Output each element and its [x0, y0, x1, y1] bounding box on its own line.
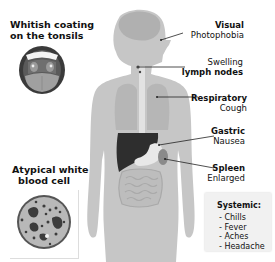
systemic-item: - Fever	[219, 223, 265, 233]
left-lung	[115, 84, 137, 130]
right-lung	[147, 84, 169, 130]
leader-dot	[158, 144, 160, 146]
lymph-category: lymph nodes	[182, 67, 243, 77]
visual-callout: Visual Photophobia	[191, 20, 244, 40]
systemic-symptoms-box: Systemic: - Chills - Fever - Aches - Hea…	[205, 193, 271, 251]
systemic-symptom-list: - Chills - Fever - Aches - Headache	[219, 213, 265, 251]
respiratory-category: Respiratory	[191, 93, 247, 103]
spleen-symptom: Enlarged	[207, 173, 245, 183]
tonsils-callout-title: Whitish coating on the tonsils	[10, 19, 76, 41]
visual-category: Visual	[191, 20, 244, 30]
gastric-category: Gastric	[211, 126, 245, 136]
gastric-symptom: Nausea	[211, 136, 245, 146]
mononucleosis-symptoms-diagram: Whitish coating on the tonsils Atypical …	[0, 0, 275, 262]
tonsils-title-line1: Whitish coating	[10, 19, 94, 30]
lymph-node	[139, 71, 141, 73]
respiratory-symptom: Cough	[191, 103, 247, 113]
respiratory-callout: Respiratory Cough	[191, 93, 247, 113]
leader-dot	[156, 96, 158, 98]
systemic-item: - Headache	[219, 242, 265, 252]
blood-cell-callout-title: Atypical white blood cell	[12, 164, 76, 186]
blood-cell-frame	[10, 190, 79, 259]
systemic-item: - Chills	[219, 213, 265, 223]
lymph-symptom: Swelling	[182, 57, 243, 67]
lymph-callout: Swelling lymph nodes	[182, 57, 243, 77]
blood-cell-title-line2: blood cell	[18, 175, 70, 186]
systemic-item: - Aches	[219, 232, 265, 242]
open-mouth-illustration	[19, 46, 65, 94]
gastric-callout: Gastric Nausea	[211, 126, 245, 146]
spleen-callout: Spleen Enlarged	[207, 163, 245, 183]
tonsils-title-line2: on the tonsils	[10, 30, 83, 41]
spleen-category: Spleen	[207, 163, 245, 173]
intestines	[119, 169, 162, 207]
systemic-heading: Systemic:	[217, 201, 261, 210]
leader-dot	[164, 158, 166, 160]
blood-cell-title-line1: Atypical white	[12, 164, 89, 175]
leader-dot	[160, 39, 162, 41]
trachea	[139, 66, 145, 138]
spleen	[158, 149, 168, 165]
visual-symptom: Photophobia	[191, 30, 244, 40]
